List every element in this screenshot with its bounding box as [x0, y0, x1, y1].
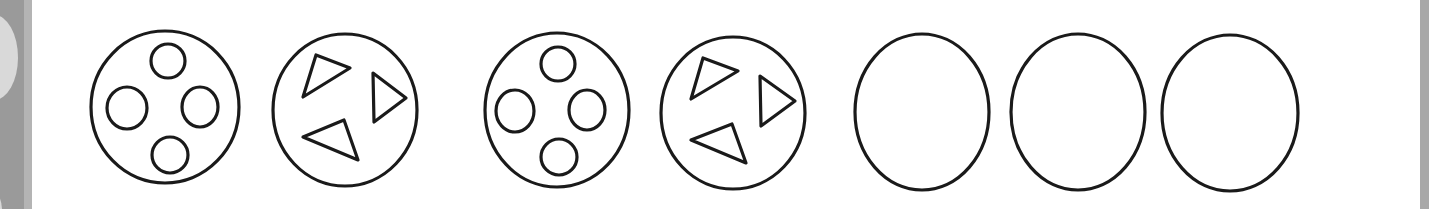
pattern-figure [0, 0, 1429, 209]
pattern-item-three-triangles [273, 34, 417, 186]
outer-circle [485, 33, 629, 187]
triangle-icon [303, 55, 350, 97]
outer-circle [661, 37, 805, 189]
empty-answer-circle [855, 34, 989, 190]
pattern-item-four-circles [485, 33, 629, 187]
empty-answer-circle [1162, 35, 1298, 191]
small-circle-icon [541, 139, 577, 175]
triangle-icon [373, 73, 406, 122]
small-circle-icon [182, 87, 218, 127]
small-circle-icon [496, 90, 534, 132]
small-circle-icon [541, 47, 575, 81]
small-circle-icon [151, 44, 185, 78]
small-circle-icon [152, 137, 188, 173]
triangle-icon [303, 120, 358, 160]
small-circle-icon [107, 87, 147, 129]
outer-circle [273, 34, 417, 186]
triangle-icon [760, 76, 795, 126]
pattern-item-three-triangles [661, 37, 805, 189]
triangle-icon [691, 124, 746, 163]
triangle-icon [691, 58, 738, 99]
empty-answer-circle [1011, 34, 1145, 190]
small-circle-icon [569, 90, 605, 130]
pattern-item-four-circles [91, 31, 239, 183]
